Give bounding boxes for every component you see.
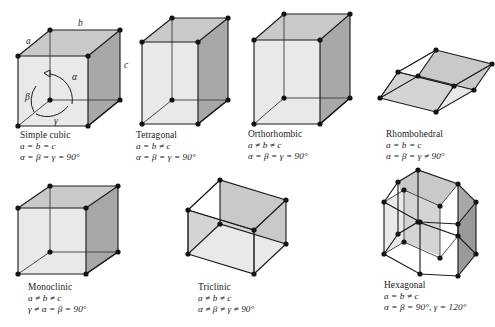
orthorhombic-diagram	[248, 8, 360, 130]
system-name-triclinic: Triclinic	[198, 282, 254, 293]
angle-relation-tetragonal: α = β = γ = 90°	[136, 152, 196, 163]
caption-monoclinic: Monoclinic a ≠ b ≠ c γ ≠ α = β = 90°	[28, 282, 87, 315]
axis-label-c: c	[124, 60, 129, 70]
angle-label-beta: β	[24, 92, 30, 102]
system-name-monoclinic: Monoclinic	[28, 282, 87, 293]
edge-relation-orthorhombic: a ≠ b ≠ c	[248, 140, 308, 151]
simple-cubic-diagram: a b c α β γ	[14, 22, 134, 127]
angle-label-gamma: γ	[54, 116, 58, 126]
caption-hexagonal: Hexagonal a = b ≠ c α = β = 90°, γ = 120…	[384, 280, 466, 313]
caption-rhombohedral: Rhombohedral a = b = c α = β = γ ≠ 90°	[386, 129, 445, 162]
edge-relation-hexagonal: a = b ≠ c	[384, 291, 466, 302]
caption-triclinic: Triclinic a ≠ b ≠ c α ≠ β ≠ γ ≠ 90°	[198, 282, 254, 315]
system-name-tetragonal: Tetragonal	[136, 130, 196, 141]
angle-relation-triclinic: α ≠ β ≠ γ ≠ 90°	[198, 304, 254, 315]
monoclinic-diagram	[14, 180, 132, 280]
angle-relation-simple-cubic: α = β = γ = 90°	[20, 152, 80, 163]
angle-relation-monoclinic: γ ≠ α = β = 90°	[28, 304, 87, 315]
system-name-simple-cubic: Simple cubic	[20, 130, 80, 141]
axis-label-a: a	[26, 36, 31, 46]
angle-relation-hexagonal: α = β = 90°, γ = 120°	[384, 302, 466, 313]
edge-relation-rhombohedral: a = b = c	[386, 140, 445, 151]
hexagonal-diagram	[368, 168, 494, 280]
edge-relation-monoclinic: a ≠ b ≠ c	[28, 293, 87, 304]
edge-relation-tetragonal: a = b ≠ c	[136, 141, 196, 152]
triclinic-diagram	[184, 178, 314, 280]
axis-label-b: b	[78, 18, 83, 28]
edge-relation-triclinic: a ≠ b ≠ c	[198, 293, 254, 304]
caption-orthorhombic: Orthorhombic a ≠ b ≠ c α = β = γ = 90°	[248, 129, 308, 162]
caption-tetragonal: Tetragonal a = b ≠ c α = β = γ = 90°	[136, 130, 196, 163]
angle-relation-orthorhombic: α = β = γ = 90°	[248, 151, 308, 162]
edge-relation-simple-cubic: a = b = c	[20, 141, 80, 152]
crystal-systems-figure: a b c α β γ Simple cubic a = b = c α = β…	[0, 0, 495, 327]
caption-simple-cubic: Simple cubic a = b = c α = β = γ = 90°	[20, 130, 80, 163]
system-name-hexagonal: Hexagonal	[384, 280, 466, 291]
system-name-orthorhombic: Orthorhombic	[248, 129, 308, 140]
rhombohedral-diagram	[378, 38, 495, 128]
angle-relation-rhombohedral: α = β = γ ≠ 90°	[386, 151, 445, 162]
system-name-rhombohedral: Rhombohedral	[386, 129, 445, 140]
tetragonal-diagram	[136, 12, 246, 130]
